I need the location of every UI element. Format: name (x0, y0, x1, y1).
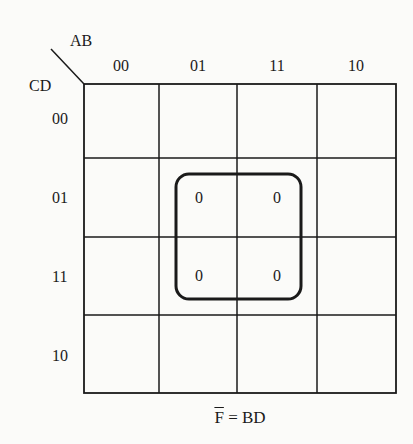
row-header: 10 (52, 348, 68, 364)
cell-value: 0 (273, 190, 281, 206)
formula-lhs: F (214, 408, 223, 427)
row-variable-label: CD (29, 78, 51, 94)
column-header: 00 (113, 58, 129, 74)
cell-value: 0 (195, 190, 203, 206)
simplified-expression: F = BD (214, 408, 265, 428)
cell-value: 0 (195, 268, 203, 284)
row-header: 00 (52, 111, 68, 127)
cell-value: 0 (273, 268, 281, 284)
corner-divider (51, 49, 84, 84)
formula-equals: = (228, 408, 238, 427)
row-header: 01 (52, 190, 68, 206)
column-header: 11 (269, 58, 284, 74)
formula-rhs: BD (242, 408, 266, 427)
grid-border (84, 84, 396, 393)
column-variable-label: AB (70, 33, 92, 49)
column-header: 01 (190, 58, 206, 74)
row-header: 11 (52, 269, 67, 285)
column-header: 10 (348, 58, 364, 74)
